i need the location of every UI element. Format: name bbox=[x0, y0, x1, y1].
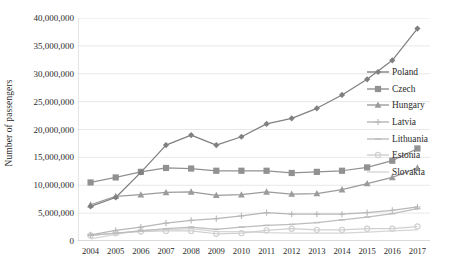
legend-label: Hungary bbox=[390, 100, 425, 110]
x-axis-tick-label: 2006 bbox=[132, 246, 149, 256]
x-axis-tick-label: 2009 bbox=[208, 246, 225, 256]
series-latvia bbox=[87, 204, 420, 238]
y-axis-tick-labels: 05,000,00010,000,00015,000,00020,000,000… bbox=[16, 0, 78, 245]
legend-item-czech[interactable]: Czech bbox=[366, 81, 454, 98]
legend-label: Estonia bbox=[390, 150, 420, 160]
legend-label: Czech bbox=[390, 84, 415, 94]
x-axis-tick-labels: 2004200520062007200820092010201120122013… bbox=[78, 244, 430, 264]
data-point-marker bbox=[289, 170, 295, 176]
x-axis-tick-label: 2004 bbox=[82, 246, 99, 256]
legend-label: Lithuania bbox=[390, 134, 428, 144]
legend-item-latvia[interactable]: Latvia bbox=[366, 114, 454, 131]
legend-marker-diamond-icon bbox=[366, 65, 390, 79]
x-axis-tick-label: 2007 bbox=[157, 246, 174, 256]
y-axis-tick-label: 20,000,000 bbox=[34, 125, 75, 135]
y-axis-tick-label: 5,000,000 bbox=[38, 208, 74, 218]
data-point-marker bbox=[263, 121, 269, 127]
data-point-marker bbox=[213, 168, 219, 174]
legend-label: Latvia bbox=[390, 117, 416, 127]
data-point-marker bbox=[314, 105, 320, 111]
legend-item-slovakia[interactable]: Slovakia bbox=[366, 164, 454, 181]
data-point-marker bbox=[188, 132, 194, 138]
y-axis-tick-label: 10,000,000 bbox=[34, 180, 75, 190]
x-axis-tick-label: 2011 bbox=[258, 246, 275, 256]
data-point-marker bbox=[263, 188, 270, 194]
data-point-marker bbox=[263, 168, 269, 174]
data-point-marker bbox=[289, 115, 295, 121]
y-axis-title-label: Number of passengers bbox=[4, 79, 14, 166]
data-point-marker bbox=[238, 168, 244, 174]
x-axis-tick-label: 2015 bbox=[359, 246, 376, 256]
y-axis-tick-label: 25,000,000 bbox=[34, 97, 75, 107]
data-point-marker bbox=[375, 86, 381, 92]
data-point-marker bbox=[339, 168, 345, 174]
legend-marker-none-icon bbox=[366, 165, 390, 179]
y-axis-tick-label: 40,000,000 bbox=[34, 13, 75, 23]
x-axis-tick-label: 2014 bbox=[333, 246, 350, 256]
legend-item-poland[interactable]: Poland bbox=[366, 64, 454, 81]
legend-item-lithuania[interactable]: Lithuania bbox=[366, 130, 454, 147]
y-axis-tick-label: 0 bbox=[70, 236, 75, 246]
data-point-marker bbox=[339, 92, 345, 98]
x-axis-tick-label: 2005 bbox=[107, 246, 124, 256]
legend-label: Slovakia bbox=[390, 167, 425, 177]
x-axis-tick-label: 2016 bbox=[384, 246, 401, 256]
data-point-marker bbox=[314, 169, 320, 175]
y-axis-tick-label: 30,000,000 bbox=[34, 69, 75, 79]
data-point-marker bbox=[238, 134, 244, 140]
legend-marker-dash-icon bbox=[366, 132, 390, 146]
data-point-marker bbox=[163, 165, 169, 171]
data-point-marker bbox=[213, 142, 219, 148]
legend-marker-circle-icon bbox=[366, 148, 390, 162]
legend-label: Poland bbox=[390, 67, 418, 77]
x-axis-tick-label: 2017 bbox=[409, 246, 426, 256]
legend-marker-square-icon bbox=[366, 82, 390, 96]
x-axis-tick-label: 2012 bbox=[283, 246, 300, 256]
data-point-marker bbox=[113, 174, 119, 180]
data-point-marker bbox=[87, 179, 93, 185]
x-axis-tick-label: 2013 bbox=[308, 246, 325, 256]
legend-item-hungary[interactable]: Hungary bbox=[366, 97, 454, 114]
x-axis-tick-label: 2008 bbox=[183, 246, 200, 256]
data-point-marker bbox=[375, 69, 381, 75]
legend-item-estonia[interactable]: Estonia bbox=[366, 147, 454, 164]
line-chart: Number of passengers 05,000,00010,000,00… bbox=[0, 0, 454, 269]
legend-marker-cross-icon bbox=[366, 115, 390, 129]
x-axis-tick-label: 2010 bbox=[233, 246, 250, 256]
y-axis-tick-label: 35,000,000 bbox=[34, 41, 75, 51]
chart-legend: PolandCzechHungaryLatviaLithuaniaEstonia… bbox=[366, 64, 454, 180]
legend-marker-triangle-icon bbox=[366, 98, 390, 112]
data-point-marker bbox=[188, 165, 194, 171]
y-axis-tick-label: 15,000,000 bbox=[34, 152, 75, 162]
